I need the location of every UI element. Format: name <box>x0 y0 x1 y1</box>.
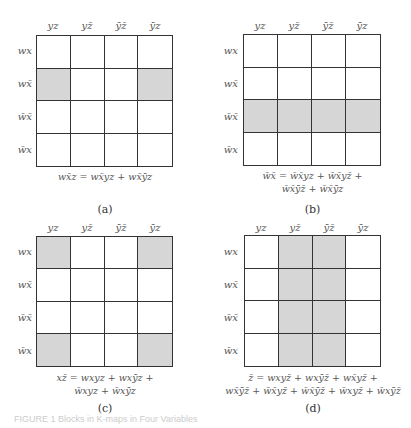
kmap-cell-r0-c0 <box>37 36 71 69</box>
kmap-cell-r2-c1-shaded <box>278 100 312 133</box>
equation-b: w̄x̄ = w̄x̄yz + w̄x̄yz̄ + w̄x̄ȳz̄ + w̄x̄… <box>225 169 400 195</box>
col-header-yz: yz <box>36 20 70 31</box>
kmap-cell-r0-c1 <box>71 237 105 269</box>
row-header-wbarx: w̄x <box>210 345 238 356</box>
figure-caption: FIGURE 1 Blocks in K-maps in Four Variab… <box>14 414 197 424</box>
kmap-cell-r0-c3-shaded <box>138 237 172 269</box>
kmap-cell-r1-c2 <box>105 269 139 301</box>
kmap-cell-r2-c0-shaded <box>244 100 278 133</box>
equation-a: wx̄z = wx̄yz + wx̄ȳz <box>20 170 190 183</box>
row-header-wbarxbar: w̄x̄ <box>4 312 32 323</box>
kmap-cell-r0-c3 <box>138 36 172 69</box>
equation-c-line-2: w̄xyz + w̄xȳz <box>20 384 190 397</box>
kmap-cell-r1-c1-shaded <box>279 269 313 302</box>
col-header-ybarzbar: ȳz̄ <box>104 20 138 31</box>
kmap-cell-r2-c2-shaded <box>312 100 346 133</box>
kmap-cell-r2-c3 <box>346 301 380 334</box>
row-header-wx: wx <box>210 45 238 56</box>
kmap-cell-r3-c2 <box>105 134 139 167</box>
kmap-cell-r1-c2-shaded <box>313 269 347 302</box>
col-header-yzbar: yz̄ <box>70 222 104 233</box>
row-header-wx: wx <box>210 246 238 257</box>
row-header-wxbar: wx̄ <box>210 78 238 89</box>
col-header-yzbar: yz̄ <box>277 20 311 31</box>
kmap-cell-r3-c0 <box>244 133 278 166</box>
kmap-cell-r1-c1 <box>71 269 105 301</box>
kmap-cell-r0-c3 <box>346 35 380 68</box>
col-header-yzbar: yz̄ <box>70 20 104 31</box>
equation-d: z̄ = wxyz̄ + wxȳz̄ + wx̄yz̄ + wx̄ȳz̄ + w… <box>218 371 408 397</box>
kmap-grid-c <box>36 236 173 367</box>
kmap-cell-r3-c2 <box>312 133 346 166</box>
kmap-cell-r0-c2 <box>105 36 139 69</box>
col-header-yz: yz <box>244 222 278 233</box>
kmap-cell-r2-c0 <box>37 101 71 134</box>
kmap-cell-r2-c3 <box>138 302 172 334</box>
kmap-cell-r2-c2 <box>105 302 139 334</box>
panel-label-a: (a) <box>20 203 190 216</box>
row-header-wbarxbar: w̄x̄ <box>4 111 32 122</box>
kmap-cell-r0-c2 <box>105 237 139 269</box>
kmap-cell-r0-c2 <box>312 35 346 68</box>
row-header-wbarx: w̄x <box>210 144 238 155</box>
kmap-cell-r1-c2 <box>312 68 346 101</box>
row-header-wx: wx <box>4 246 32 257</box>
kmap-cell-r3-c1 <box>71 334 105 366</box>
kmap-cell-r1-c2 <box>105 69 139 102</box>
kmap-cell-r2-c2-shaded <box>313 301 347 334</box>
col-header-yzbar: yz̄ <box>278 222 312 233</box>
row-header-wbarxbar: w̄x̄ <box>210 111 238 122</box>
row-header-wxbar: wx̄ <box>210 279 238 290</box>
row-header-wxbar: wx̄ <box>4 279 32 290</box>
col-header-ybarz: ȳz <box>138 20 172 31</box>
equation-d-line-1: z̄ = wxyz̄ + wxȳz̄ + wx̄yz̄ + <box>218 371 408 384</box>
kmap-cell-r0-c1 <box>71 36 105 69</box>
kmap-cell-r3-c3 <box>346 334 380 367</box>
kmap-grid-b <box>243 34 381 166</box>
col-header-ybarzbar: ȳz̄ <box>104 222 138 233</box>
kmap-cell-r1-c3 <box>346 68 380 101</box>
kmap-cell-r3-c2-shaded <box>313 334 347 367</box>
kmap-cell-r0-c1 <box>278 35 312 68</box>
kmap-cell-r2-c1 <box>71 101 105 134</box>
equation-b-line-1: w̄x̄ = w̄x̄yz + w̄x̄yz̄ + <box>225 169 400 182</box>
equation-b-line-2: w̄x̄ȳz̄ + w̄x̄ȳz <box>225 182 400 195</box>
kmap-cell-r3-c1 <box>71 134 105 167</box>
kmap-cell-r3-c3-shaded <box>138 334 172 366</box>
kmap-cell-r1-c0 <box>244 68 278 101</box>
row-header-wx: wx <box>4 45 32 56</box>
kmap-cell-r2-c1-shaded <box>279 301 313 334</box>
kmap-cell-r3-c0-shaded <box>37 334 71 366</box>
kmap-cell-r2-c3-shaded <box>346 100 380 133</box>
kmap-cell-r0-c1-shaded <box>279 236 313 269</box>
kmap-cell-r0-c3 <box>346 236 380 269</box>
kmap-cell-r2-c2 <box>105 101 139 134</box>
kmap-cell-r2-c0 <box>37 302 71 334</box>
kmap-cell-r1-c3 <box>138 269 172 301</box>
panel-label-b: (b) <box>225 203 400 216</box>
kmap-cell-r0-c0 <box>245 236 279 269</box>
kmap-cell-r2-c0 <box>245 301 279 334</box>
row-header-wbarx: w̄x <box>4 345 32 356</box>
equation-a-line-1: wx̄z = wx̄yz + wx̄ȳz <box>20 170 190 183</box>
kmap-cell-r0-c2-shaded <box>313 236 347 269</box>
col-header-ybarzbar: ȳz̄ <box>312 222 346 233</box>
kmap-cell-r3-c0 <box>37 134 71 167</box>
col-header-ybarzbar: ȳz̄ <box>311 20 345 31</box>
panel-label-d: (d) <box>218 402 408 415</box>
row-header-wbarxbar: w̄x̄ <box>210 312 238 323</box>
equation-c: xz̄ = wxyz + wxȳz + w̄xyz + w̄xȳz <box>20 371 190 397</box>
equation-c-line-1: xz̄ = wxyz + wxȳz + <box>20 371 190 384</box>
kmap-cell-r1-c3 <box>346 269 380 302</box>
kmap-cell-r3-c1 <box>278 133 312 166</box>
kmap-cell-r1-c0 <box>37 269 71 301</box>
kmap-cell-r3-c1-shaded <box>279 334 313 367</box>
equation-d-line-2: wx̄ȳz̄ + w̄x̄yz̄ + w̄x̄ȳz̄ + w̄xyz̄ + w̄… <box>218 384 408 397</box>
row-header-wxbar: wx̄ <box>4 78 32 89</box>
kmap-cell-r3-c0 <box>245 334 279 367</box>
kmap-cell-r2-c1 <box>71 302 105 334</box>
row-header-wbarx: w̄x <box>4 144 32 155</box>
kmap-cell-r1-c1 <box>278 68 312 101</box>
kmap-cell-r3-c3 <box>346 133 380 166</box>
col-header-ybarz: ȳz <box>345 20 379 31</box>
